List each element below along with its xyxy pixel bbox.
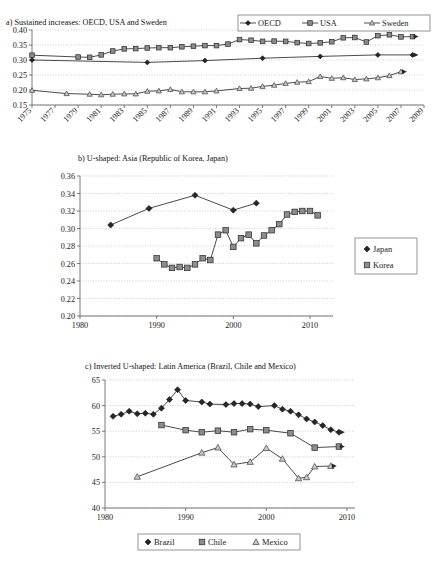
data-point-brazil	[247, 401, 253, 407]
data-point-chile	[183, 427, 189, 433]
legend-marker-usa	[308, 21, 313, 26]
data-point-usa	[180, 45, 185, 50]
legend-marker-korea	[364, 262, 370, 268]
data-point-usa	[318, 41, 323, 46]
x-tick-label: 1991	[200, 106, 218, 124]
data-point-brazil	[199, 399, 205, 405]
x-tick-label: 1997	[269, 106, 287, 124]
legend-marker-chile	[199, 539, 205, 545]
data-point-brazil	[231, 401, 237, 407]
series-end-arrow-oecd	[413, 53, 418, 58]
y-tick-label: 50	[92, 453, 100, 462]
data-point-korea	[223, 227, 229, 233]
data-point-brazil	[110, 413, 116, 419]
data-point-usa	[387, 33, 392, 38]
data-point-usa	[376, 33, 381, 38]
data-point-usa	[168, 45, 173, 50]
data-point-oecd	[318, 54, 323, 59]
data-point-usa	[133, 46, 138, 51]
data-point-chile	[247, 426, 253, 432]
data-point-sweden	[318, 74, 323, 79]
data-point-chile	[288, 430, 294, 436]
data-point-korea	[246, 232, 252, 238]
data-point-usa	[341, 36, 346, 41]
data-point-korea	[154, 255, 160, 261]
data-point-korea	[215, 232, 221, 238]
legend-panel-c: BrazilChileMexico	[138, 534, 300, 550]
legend-panel-a: OECDUSASweden	[238, 15, 430, 31]
x-tick-label: 2000	[258, 513, 274, 522]
data-point-brazil	[255, 404, 261, 410]
data-point-usa	[260, 39, 265, 44]
data-point-usa	[226, 42, 231, 47]
data-point-oecd	[145, 60, 150, 65]
data-point-chile	[215, 428, 221, 434]
panel-a-plot: 0.150.200.250.300.350.401975197719791981…	[0, 0, 435, 148]
data-point-usa	[237, 37, 242, 42]
data-point-korea	[277, 221, 283, 227]
x-tick-label: 1995	[246, 106, 264, 124]
y-tick-label: 60	[92, 402, 100, 411]
data-point-brazil	[279, 406, 285, 412]
data-point-korea	[200, 255, 206, 261]
data-point-brazil	[239, 401, 245, 407]
data-point-brazil	[296, 412, 302, 418]
x-tick-label: 2010	[302, 321, 318, 330]
data-point-usa	[99, 53, 104, 58]
y-tick-label: 0.30	[13, 56, 27, 65]
data-point-korea	[231, 244, 237, 250]
panel-b-svg: 0.200.220.240.260.280.300.320.340.361980…	[0, 148, 435, 360]
data-point-usa	[203, 43, 208, 48]
x-tick-label: 1990	[148, 321, 164, 330]
y-tick-label: 55	[92, 427, 100, 436]
y-tick-label: 0.28	[61, 242, 75, 251]
x-tick-label: 1999	[292, 106, 310, 124]
data-point-korea	[292, 209, 298, 215]
data-point-chile	[159, 422, 165, 428]
data-point-chile	[199, 429, 205, 435]
data-point-brazil	[287, 408, 293, 414]
x-tick-label: 2010	[339, 513, 355, 522]
legend-label-chile: Chile	[208, 538, 226, 547]
data-point-korea	[261, 233, 267, 239]
x-tick-label: 2000	[225, 321, 241, 330]
y-tick-label: 0.20	[13, 86, 27, 95]
y-tick-label: 0.34	[61, 190, 75, 199]
data-point-korea	[269, 227, 275, 233]
data-point-japan	[253, 200, 259, 206]
x-tick-label: 1979	[62, 106, 80, 124]
data-point-korea	[300, 208, 306, 214]
panel-a-svg: 0.150.200.250.300.350.401975197719791981…	[0, 0, 435, 148]
data-point-brazil	[312, 419, 318, 425]
data-point-brazil	[207, 401, 213, 407]
data-point-usa	[191, 44, 196, 49]
data-point-korea	[185, 265, 191, 271]
data-point-mexico	[215, 444, 221, 450]
data-point-brazil	[328, 427, 334, 433]
panel-c-svg: 4045505560651980199020002010BrazilChileM…	[0, 360, 435, 564]
data-point-brazil	[304, 416, 310, 422]
data-point-brazil	[118, 411, 124, 417]
x-tick-label: 1980	[97, 513, 113, 522]
series-end-arrow-chile	[340, 444, 345, 449]
data-point-usa	[272, 39, 277, 44]
y-tick-label: 0.24	[61, 277, 75, 286]
data-point-japan	[230, 207, 236, 213]
y-tick-label: 0.32	[61, 207, 75, 216]
data-point-usa	[306, 41, 311, 46]
data-point-korea	[162, 262, 168, 268]
x-tick-label: 1983	[108, 106, 126, 124]
x-tick-label: 1977	[39, 106, 57, 124]
data-point-usa	[122, 47, 127, 52]
x-tick-label: 2001	[315, 106, 333, 124]
data-point-usa	[329, 39, 334, 44]
y-tick-label: 0.36	[61, 172, 75, 181]
panel-c-plot: 4045505560651980199020002010BrazilChileM…	[0, 360, 435, 564]
series-end-arrow-sweden	[402, 69, 407, 74]
data-point-brazil	[134, 411, 140, 417]
chart-panel-a: a) Sustained increases: OECD, USA and Sw…	[0, 0, 435, 148]
data-point-korea	[169, 265, 175, 271]
legend-label-japan: Japan	[373, 245, 393, 254]
legend-label-sweden: Sweden	[382, 19, 409, 28]
y-tick-label: 0.30	[61, 225, 75, 234]
